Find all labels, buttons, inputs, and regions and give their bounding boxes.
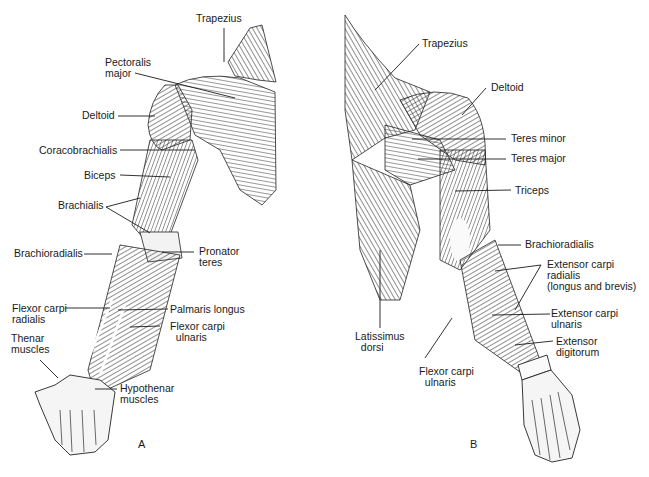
label-trapezius-b: Trapezius xyxy=(422,38,468,49)
label-extensor-carpi-ulnaris: Extensor carpi ulnaris xyxy=(551,308,618,330)
label-brachioradialis-a: Brachioradialis xyxy=(14,248,83,259)
label-pectoralis-major: Pectoralis major xyxy=(105,57,151,79)
label-extensor-digitorum: Extensor digitorum xyxy=(556,336,599,358)
panel-letter-a: A xyxy=(138,438,145,450)
label-flexor-carpi-radialis: Flexor carpi radialis xyxy=(12,303,67,325)
label-hypothenar-muscles: Hypothenar muscles xyxy=(120,383,174,405)
label-triceps: Triceps xyxy=(515,185,549,196)
label-flexor-carpi-ulnaris-b: Flexor carpi ulnaris xyxy=(419,366,474,388)
label-palmaris-longus: Palmaris longus xyxy=(170,304,245,315)
label-extensor-carpi-radialis: Extensor carpi radialis (longus and brev… xyxy=(547,259,636,292)
label-pronator-teres: Pronator teres xyxy=(199,246,239,268)
label-biceps: Biceps xyxy=(84,170,116,181)
label-thenar-muscles: Thenar muscles xyxy=(11,333,50,355)
label-coracobrachialis: Coracobrachialis xyxy=(39,145,117,156)
anatomy-figure: Trapezius Pectoralis major Deltoid Corac… xyxy=(0,0,649,477)
label-deltoid-a: Deltoid xyxy=(82,110,115,121)
panel-letter-b: B xyxy=(470,438,477,450)
label-brachialis: Brachialis xyxy=(58,200,104,211)
label-latissimus-dorsi: Latissimus dorsi xyxy=(355,331,405,353)
label-brachioradialis-b: Brachioradialis xyxy=(525,239,594,250)
label-flexor-carpi-ulnaris-a: Flexor carpi ulnaris xyxy=(170,321,225,343)
label-trapezius-a: Trapezius xyxy=(196,13,242,24)
label-teres-major: Teres major xyxy=(511,153,566,164)
label-teres-minor: Teres minor xyxy=(511,133,566,144)
label-deltoid-b: Deltoid xyxy=(491,82,524,93)
